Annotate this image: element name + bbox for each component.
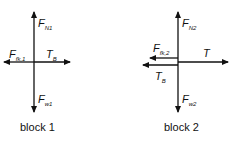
label-ffk1: Ffk,1 xyxy=(9,48,25,62)
caption-block1: block 1 xyxy=(20,121,55,133)
label-fn2: FN2 xyxy=(182,17,197,31)
caption-block2: block 2 xyxy=(164,121,199,133)
free-body-diagrams: FN1 Ffk,1 TB Fw1 block 1 FN2 Ffk,2 T TB … xyxy=(0,0,237,141)
label-tb1: TB xyxy=(46,48,57,62)
label-fw1: Fw1 xyxy=(38,93,52,107)
block1-diagram: FN1 Ffk,1 TB Fw1 block 1 xyxy=(4,12,70,133)
label-ffk2: Ffk,2 xyxy=(153,42,170,56)
label-fw2: Fw2 xyxy=(182,93,197,107)
label-tb2: TB xyxy=(155,70,166,84)
label-fn1: FN1 xyxy=(38,17,52,31)
label-t: T xyxy=(203,47,211,59)
block2-diagram: FN2 Ffk,2 T TB Fw2 block 2 xyxy=(143,12,228,133)
